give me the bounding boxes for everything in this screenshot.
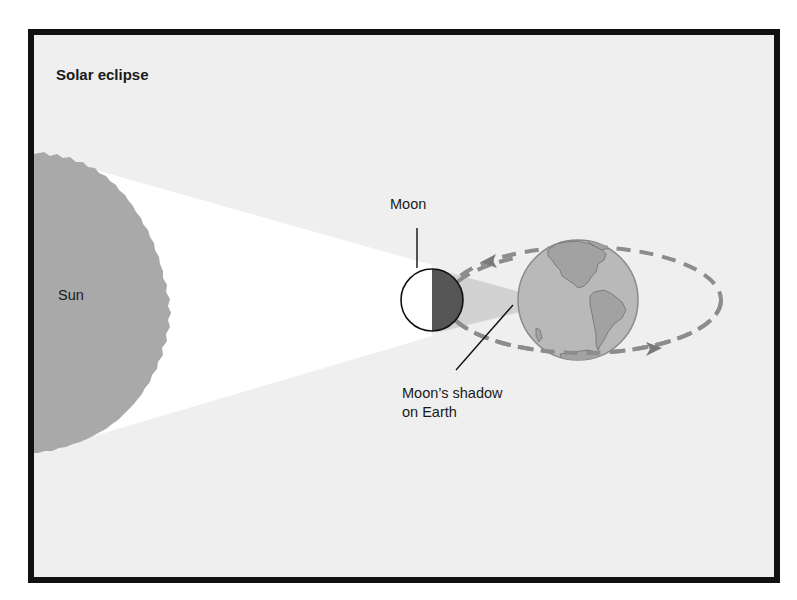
- diagram-canvas: Solar eclipse Sun Moon Moon’s shadow on …: [0, 0, 797, 600]
- moon: [401, 269, 463, 331]
- diagram-title: Solar eclipse: [56, 66, 149, 83]
- earth: [518, 238, 638, 362]
- moon-shadow-label-line2: on Earth: [402, 404, 457, 420]
- solar-eclipse-diagram: Solar eclipse Sun Moon Moon’s shadow on …: [0, 0, 797, 600]
- moon-shadow-label-line1: Moon’s shadow: [402, 385, 503, 401]
- moon-label: Moon: [390, 196, 426, 212]
- sun-label: Sun: [58, 287, 84, 303]
